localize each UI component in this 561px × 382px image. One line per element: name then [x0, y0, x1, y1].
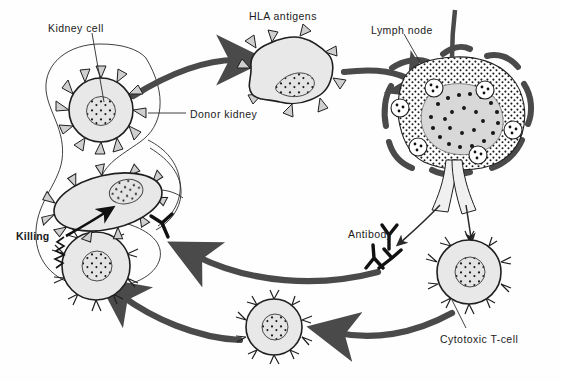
arrow-tcell-to-circulating [338, 313, 452, 336]
label-cytotoxic-tcell: Cytotoxic T-cell [440, 333, 518, 345]
label-antibody: Antibody [348, 228, 392, 240]
lymph-node [385, 10, 531, 214]
diagram-svg [0, 0, 561, 382]
arrow-antibody-to-target [196, 256, 378, 281]
arrow-circulating-to-target [122, 296, 240, 340]
label-hla-antigens: HLA antigens [249, 10, 317, 22]
label-donor-kidney: Donor kidney [190, 108, 257, 120]
kidney-cell [56, 66, 146, 154]
label-lymph-node: Lymph node [371, 24, 433, 36]
cytotoxic-tcell [426, 231, 511, 314]
arrow-kidney-to-antigen [133, 60, 236, 96]
label-kidney-cell: Kidney cell [48, 22, 104, 34]
antibody-y-3 [366, 245, 383, 268]
antigen-presenting-cell [237, 24, 346, 117]
diagram-canvas: Kidney cell HLA antigens Lymph node Dono… [0, 0, 561, 382]
bound-antibody [151, 214, 172, 237]
circulating-cell [236, 290, 312, 364]
arrow-lymph-to-antibody [401, 205, 440, 242]
label-killing: Killing [16, 230, 49, 242]
